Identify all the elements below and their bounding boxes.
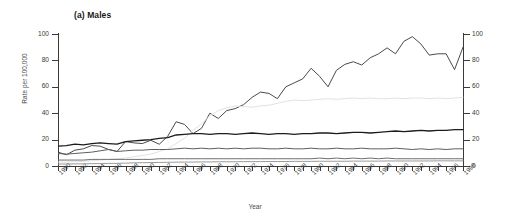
y-tick-label-left: 20 (9, 136, 49, 143)
y-tick-label-left: 40 (9, 110, 49, 117)
y-tick-label-left: 100 (9, 31, 49, 38)
y-tick-label-right: 0 (472, 163, 510, 170)
y-tick-right (464, 87, 470, 88)
y-tick-label-right: 100 (472, 31, 510, 38)
y-tick-label-right: 80 (472, 57, 510, 64)
y-tick-label-left: 80 (9, 57, 49, 64)
y-tick-right (464, 113, 470, 114)
y-tick-label-left: 60 (9, 83, 49, 90)
plot-area (58, 34, 464, 166)
series-line-series-3-dark (58, 130, 463, 147)
y-tick-right (464, 60, 470, 61)
y-tick-right (464, 34, 470, 35)
chart-figure: (a) Males Rate per 100,000 020406080100 … (0, 0, 510, 216)
series-lines (58, 34, 464, 166)
x-axis-label: Year (0, 203, 510, 210)
y-tick-label-right: 20 (472, 136, 510, 143)
series-line-series-2-lightest (58, 97, 463, 162)
y-tick-label-left: 0 (9, 163, 49, 170)
chart-title: (a) Males (74, 10, 111, 20)
series-line-series-6-bottom (58, 161, 463, 164)
y-tick-right (464, 140, 470, 141)
series-line-series-1-lung (58, 37, 463, 155)
y-tick-label-right: 40 (472, 110, 510, 117)
y-tick-label-right: 60 (472, 83, 510, 90)
